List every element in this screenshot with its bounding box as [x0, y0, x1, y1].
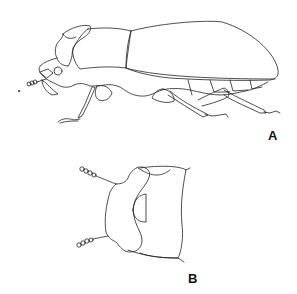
pronotum-dorsal	[140, 166, 186, 258]
eye	[54, 67, 62, 75]
front-leg	[78, 87, 95, 118]
panel-b-head-pronotum-dorsal	[77, 166, 190, 262]
elytra-edge	[126, 68, 275, 79]
head	[55, 34, 68, 66]
head-dorsal	[105, 167, 149, 252]
clypeus	[40, 69, 53, 78]
head-inner-lobe	[133, 194, 146, 222]
scientific-illustration: A B	[0, 0, 297, 294]
panel-label-a: A	[268, 128, 277, 143]
antenna-upper	[80, 167, 116, 184]
head-front	[39, 58, 74, 87]
head-horn	[63, 25, 91, 66]
middle-leg	[152, 89, 174, 102]
antenna-lower	[77, 236, 108, 247]
panel-label-b: B	[188, 271, 197, 286]
middle-tarsus	[205, 114, 228, 117]
thorax-underside	[74, 82, 268, 96]
head-horn-tip	[63, 34, 76, 38]
panel-a-beetle-lateral	[18, 21, 280, 123]
pronotum	[73, 28, 131, 69]
beetle-drawings	[0, 0, 297, 294]
elytra	[126, 21, 278, 80]
hind-tarsus	[264, 111, 280, 113]
mandible	[42, 80, 58, 95]
